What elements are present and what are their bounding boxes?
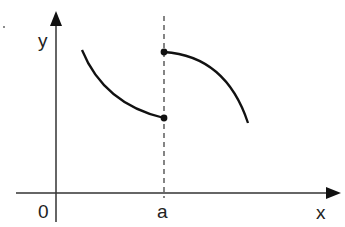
x-axis-label: x bbox=[316, 202, 326, 223]
left-branch-curve bbox=[82, 50, 164, 118]
right-branch-curve bbox=[164, 52, 248, 123]
a-label: a bbox=[157, 201, 168, 222]
lower-endpoint-dot bbox=[161, 115, 168, 122]
origin-label: 0 bbox=[38, 201, 49, 222]
upper-endpoint-dot bbox=[161, 49, 168, 56]
function-graph: y x 0 a bbox=[0, 0, 345, 227]
stray-dot bbox=[3, 26, 5, 28]
y-axis-label: y bbox=[38, 30, 48, 51]
